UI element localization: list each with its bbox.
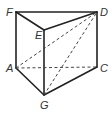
label-G: G bbox=[40, 99, 49, 111]
label-A: A bbox=[5, 62, 13, 74]
edge-FE bbox=[16, 12, 44, 30]
edge-AC bbox=[16, 67, 97, 68]
label-C: C bbox=[100, 62, 108, 74]
edge-ED bbox=[44, 12, 97, 30]
dashed-edges bbox=[16, 12, 97, 95]
edge-GC bbox=[44, 67, 97, 95]
label-E: E bbox=[35, 29, 43, 41]
triangular-prism-diagram: F D E A C G bbox=[0, 0, 112, 114]
label-F: F bbox=[6, 6, 14, 18]
label-D: D bbox=[100, 6, 108, 18]
vertex-labels: F D E A C G bbox=[5, 6, 108, 111]
edge-AG bbox=[16, 68, 44, 95]
edge-GD bbox=[44, 12, 97, 95]
solid-edges bbox=[16, 12, 97, 95]
